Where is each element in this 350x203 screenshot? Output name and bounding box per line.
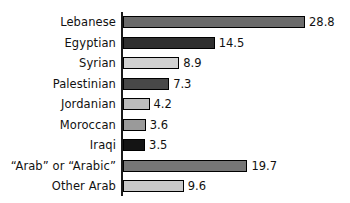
category-label: Lebanese (60, 15, 116, 29)
bar-row: Egyptian14.5 (0, 33, 350, 54)
plot-area: Lebanese28.8Egyptian14.5Syrian8.9Palesti… (0, 12, 350, 201)
bar-value-label: 8.9 (183, 56, 201, 70)
bar-value-label: 3.5 (149, 138, 167, 152)
bar-group: 3.6 (123, 119, 168, 131)
bar-value-label: 3.6 (150, 118, 168, 132)
bar-value-label: 28.8 (309, 15, 335, 29)
bar-group: 9.6 (123, 180, 206, 192)
bar-group: 8.9 (123, 57, 202, 69)
bar (123, 160, 247, 172)
bar-row: Jordanian4.2 (0, 94, 350, 115)
bar-group: 3.5 (123, 139, 167, 151)
bar-chart: Lebanese28.8Egyptian14.5Syrian8.9Palesti… (0, 0, 350, 203)
bar-row: Lebanese28.8 (0, 12, 350, 33)
bar-row: Palestinian7.3 (0, 74, 350, 95)
category-label: Moroccan (60, 118, 116, 132)
bar-group: 28.8 (123, 16, 335, 28)
bar (123, 119, 146, 131)
bar-row: Other Arab9.6 (0, 176, 350, 197)
bar-row: Moroccan3.6 (0, 115, 350, 136)
bar-row: Syrian8.9 (0, 53, 350, 74)
bar (123, 37, 215, 49)
bar-value-label: 14.5 (219, 36, 245, 50)
bar-value-label: 4.2 (154, 97, 172, 111)
category-label: “Arab” or “Arabic” (11, 159, 116, 173)
bar (123, 16, 305, 28)
bar-row: Iraqi3.5 (0, 135, 350, 156)
bar-group: 7.3 (123, 78, 191, 90)
category-label: Palestinian (53, 77, 116, 91)
category-label: Jordanian (61, 97, 116, 111)
bar (123, 57, 179, 69)
bar-group: 14.5 (123, 37, 244, 49)
bar-value-label: 19.7 (251, 159, 277, 173)
category-label: Other Arab (52, 179, 116, 193)
bar (123, 78, 169, 90)
category-label: Egyptian (64, 36, 116, 50)
bar-row: “Arab” or “Arabic”19.7 (0, 156, 350, 177)
bar-group: 4.2 (123, 98, 172, 110)
bar-value-label: 9.6 (188, 179, 206, 193)
bar (123, 98, 150, 110)
category-label: Syrian (79, 56, 116, 70)
bar-value-label: 7.3 (173, 77, 191, 91)
bar-group: 19.7 (123, 160, 277, 172)
bar (123, 180, 184, 192)
bar (123, 139, 145, 151)
category-label: Iraqi (90, 138, 116, 152)
